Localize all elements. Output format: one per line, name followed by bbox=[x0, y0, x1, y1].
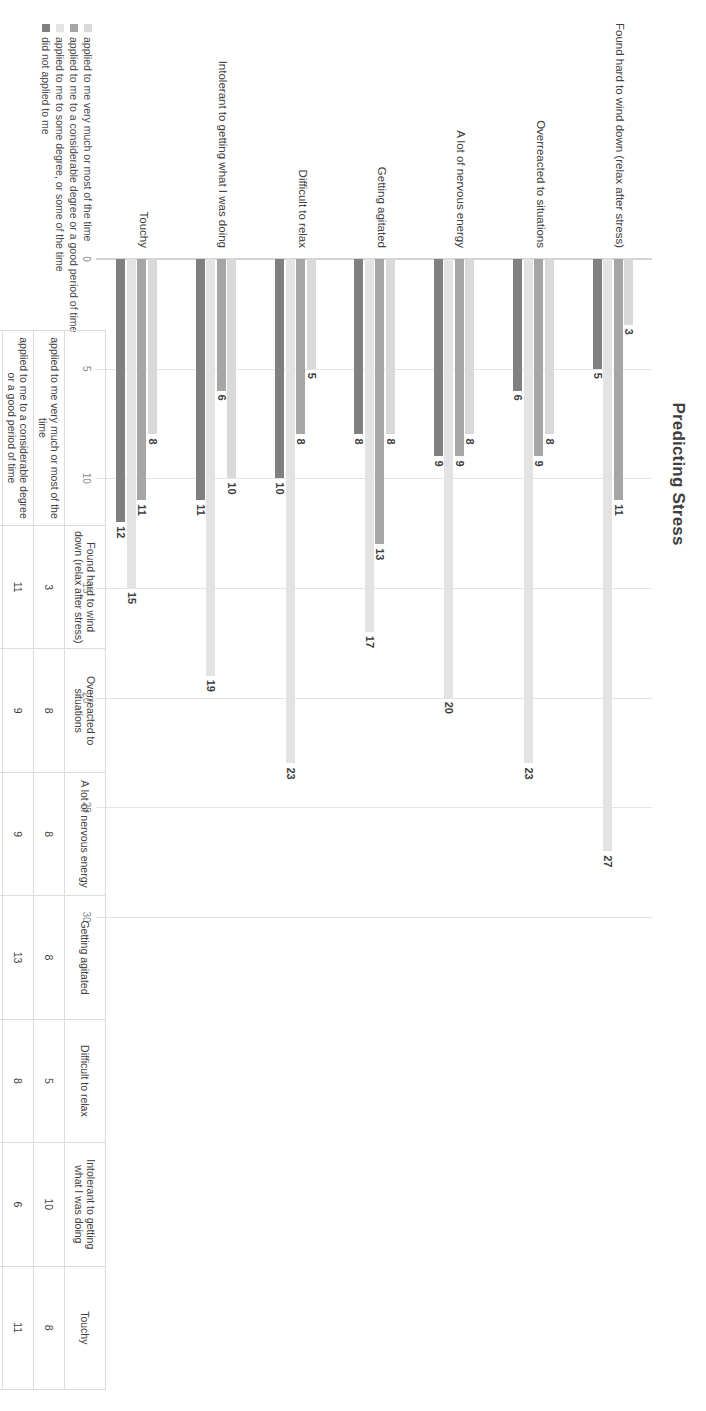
bar-3[interactable] bbox=[355, 259, 364, 434]
legend-swatch-icon bbox=[84, 24, 92, 32]
bar-1[interactable] bbox=[137, 259, 146, 500]
bar-value-label: 5 bbox=[306, 373, 318, 379]
data-table[interactable]: Found hard to wind down (relax after str… bbox=[0, 330, 106, 1390]
bar-3[interactable] bbox=[513, 259, 522, 391]
table-cell: 17 bbox=[0, 896, 2, 1019]
bar-value-label: 10 bbox=[226, 482, 238, 494]
worksheet-canvas: Predicting Stress Found hard to wind dow… bbox=[0, 0, 706, 1411]
legend-item-label: applied to me to a considerable degree o… bbox=[68, 37, 80, 332]
table-cell: 20 bbox=[0, 772, 2, 895]
bar-value-label: 11 bbox=[136, 504, 148, 516]
table-cell: 8 bbox=[2, 1019, 33, 1142]
bar-2[interactable] bbox=[444, 259, 453, 698]
chart-legend[interactable]: applied to me very much or most of the t… bbox=[38, 24, 94, 354]
category-axis-label: Intolerant to getting what I was doing bbox=[216, 22, 229, 248]
table-row[interactable]: applied to me to some degree, or some of… bbox=[0, 331, 2, 1390]
table-column-header: Found hard to wind down (relax after str… bbox=[65, 526, 106, 649]
chart-area[interactable]: Predicting Stress Found hard to wind dow… bbox=[8, 24, 698, 924]
table-column-header: Touchy bbox=[65, 1266, 106, 1389]
bar-2[interactable] bbox=[286, 259, 295, 763]
category-axis-label: Difficult to relax bbox=[295, 22, 308, 248]
bar-1[interactable] bbox=[217, 259, 226, 391]
bar-0[interactable] bbox=[465, 259, 474, 434]
table-cell: 11 bbox=[2, 1266, 33, 1389]
bar-0[interactable] bbox=[307, 259, 316, 369]
legend-item[interactable]: did not applied to me bbox=[40, 24, 52, 354]
table-cell: 19 bbox=[0, 1143, 2, 1266]
plot-region: 0510152025303112758923689209813178582310… bbox=[96, 258, 652, 916]
data-table-block[interactable]: Found hard to wind down (relax after str… bbox=[0, 330, 106, 1390]
legend-item-label: applied to me to some degree, or some of… bbox=[54, 37, 66, 272]
bar-2[interactable] bbox=[365, 259, 374, 632]
bar-value-label: 20 bbox=[443, 702, 455, 714]
bar-2[interactable] bbox=[603, 259, 612, 851]
table-header-row: Found hard to wind down (relax after str… bbox=[65, 331, 106, 1390]
bar-value-label: 6 bbox=[512, 395, 524, 401]
legend-item[interactable]: applied to me to some degree, or some of… bbox=[54, 24, 66, 354]
legend-swatch-icon bbox=[56, 24, 64, 32]
table-cell: 10 bbox=[33, 1143, 64, 1266]
bar-0[interactable] bbox=[227, 259, 236, 478]
table-column-header: A lot of nervous energy bbox=[65, 772, 106, 895]
table-cell: 8 bbox=[33, 896, 64, 1019]
bar-0[interactable] bbox=[148, 259, 157, 434]
bar-value-label: 8 bbox=[147, 438, 159, 444]
bar-0[interactable] bbox=[386, 259, 395, 434]
bar-0[interactable] bbox=[624, 259, 633, 325]
legend-swatch-icon bbox=[70, 24, 78, 32]
legend-item[interactable]: applied to me very much or most of the t… bbox=[82, 24, 94, 354]
table-row-header: applied to me to some degree, or some of… bbox=[0, 331, 2, 526]
chart-title: Predicting Stress bbox=[668, 24, 688, 924]
table-row[interactable]: applied to me very much or most of the t… bbox=[33, 331, 64, 1390]
table-cell: 9 bbox=[2, 649, 33, 772]
legend-item[interactable]: applied to me to a considerable degree o… bbox=[68, 24, 80, 354]
bar-value-label: 9 bbox=[433, 460, 445, 466]
bar-1[interactable] bbox=[455, 259, 464, 456]
bar-value-label: 9 bbox=[533, 460, 545, 466]
bar-3[interactable] bbox=[434, 259, 443, 456]
gridline bbox=[96, 698, 652, 699]
bar-value-label: 19 bbox=[205, 680, 217, 692]
table-column-header: Getting agitated bbox=[65, 896, 106, 1019]
table-cell: 15 bbox=[0, 1266, 2, 1389]
gridline bbox=[96, 478, 652, 479]
bar-value-label: 23 bbox=[285, 767, 297, 779]
legend-item-label: did not applied to me bbox=[40, 37, 52, 134]
category-axis-label: Found hard to wind down (relax after str… bbox=[613, 22, 626, 248]
bar-1[interactable] bbox=[614, 259, 623, 500]
bar-3[interactable] bbox=[196, 259, 205, 500]
gridline bbox=[96, 369, 652, 370]
category-axis-label: Overreacted to situations bbox=[534, 22, 547, 248]
bar-value-label: 17 bbox=[364, 636, 376, 648]
table-cell: 11 bbox=[2, 526, 33, 649]
gridline bbox=[96, 588, 652, 589]
bar-3[interactable] bbox=[116, 259, 125, 522]
bar-0[interactable] bbox=[545, 259, 554, 434]
data-table-body: applied to me very much or most of the t… bbox=[0, 331, 65, 1390]
table-cell: 27 bbox=[0, 526, 2, 649]
table-cell: 8 bbox=[33, 1266, 64, 1389]
bar-value-label: 8 bbox=[464, 438, 476, 444]
bar-value-label: 12 bbox=[115, 526, 127, 538]
bar-value-label: 10 bbox=[274, 482, 286, 494]
category-axis-label: Touchy bbox=[137, 22, 150, 248]
bar-3[interactable] bbox=[275, 259, 284, 478]
bar-value-label: 11 bbox=[195, 504, 207, 516]
table-cell: 9 bbox=[2, 772, 33, 895]
bar-1[interactable] bbox=[534, 259, 543, 456]
plot-wrapper: Found hard to wind down (relax after str… bbox=[52, 24, 652, 924]
bar-value-label: 3 bbox=[623, 329, 635, 335]
gridline bbox=[96, 807, 652, 808]
bar-value-label: 9 bbox=[454, 460, 466, 466]
bar-1[interactable] bbox=[376, 259, 385, 544]
bar-value-label: 27 bbox=[602, 855, 614, 867]
table-row[interactable]: applied to me to a considerable degree o… bbox=[2, 331, 33, 1390]
bar-2[interactable] bbox=[524, 259, 533, 763]
bar-3[interactable] bbox=[593, 259, 602, 369]
bar-2[interactable] bbox=[206, 259, 215, 676]
table-column-header: Overreacted to situations bbox=[65, 649, 106, 772]
bar-2[interactable] bbox=[127, 259, 136, 588]
table-cell: 5 bbox=[33, 1019, 64, 1142]
bar-1[interactable] bbox=[296, 259, 305, 434]
table-corner-cell bbox=[65, 331, 106, 526]
